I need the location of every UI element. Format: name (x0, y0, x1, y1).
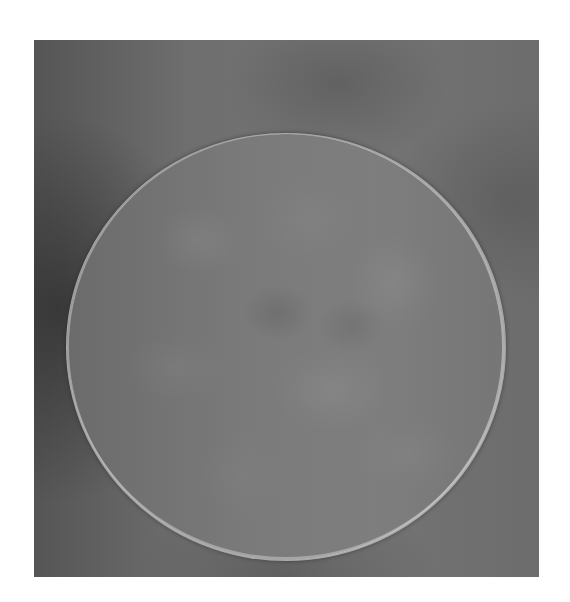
photograph (34, 40, 539, 577)
disc-sample (66, 133, 506, 561)
